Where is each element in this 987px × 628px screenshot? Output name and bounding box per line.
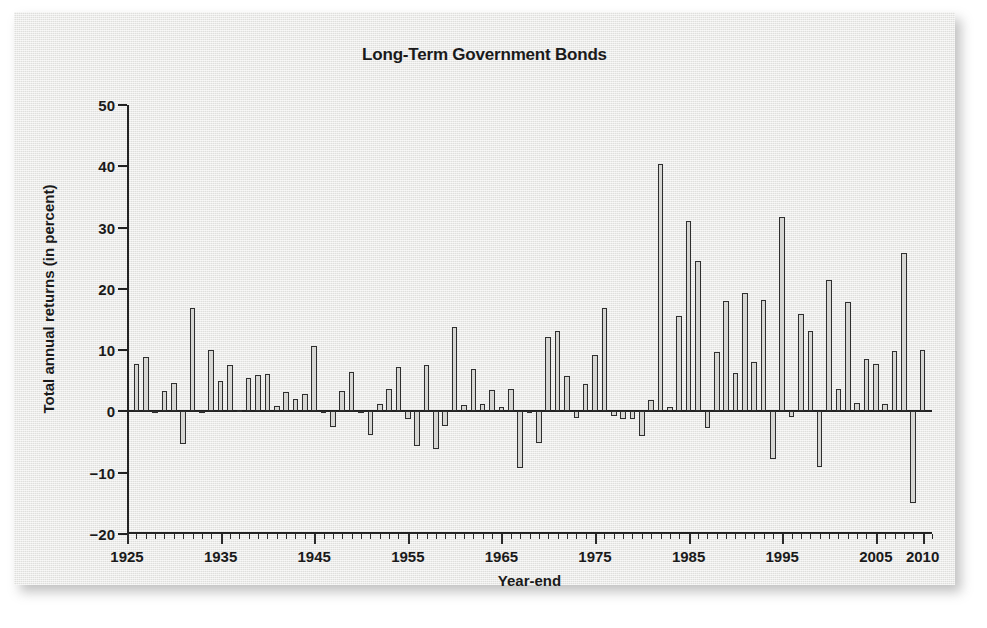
x-tick-1974	[586, 534, 587, 539]
x-tick-1937	[239, 534, 240, 539]
bar-1983	[667, 407, 673, 411]
x-tick-1982	[661, 534, 662, 539]
bar-1940	[265, 374, 271, 411]
y-tick-0	[118, 410, 127, 412]
x-tick-1939	[258, 534, 259, 539]
bar-1931	[180, 411, 186, 443]
y-tick-label-30: 30	[98, 219, 115, 236]
bar-1932	[190, 308, 196, 411]
x-tick-1926	[136, 534, 137, 539]
x-tick-1943	[295, 534, 296, 539]
x-tick-2003	[857, 534, 858, 539]
x-tick-1933	[202, 534, 203, 539]
bar-1941	[274, 406, 280, 412]
x-tick-1952	[380, 534, 381, 539]
x-tick-1959	[445, 534, 446, 539]
x-tick-1951	[370, 534, 371, 539]
bar-1942	[283, 392, 289, 412]
bar-1979	[630, 411, 636, 418]
bar-1945	[311, 346, 317, 412]
x-tick-1994	[773, 534, 774, 539]
x-tick-1998	[810, 534, 811, 539]
bar-1959	[442, 411, 448, 425]
x-tick-1965	[501, 534, 503, 544]
x-tick-1989	[726, 534, 727, 539]
bar-2002	[845, 302, 851, 411]
x-tick-1973	[576, 534, 577, 539]
bar-1966	[508, 389, 514, 411]
bar-1998	[808, 331, 814, 411]
chart-panel: Long-Term Government Bonds Total annual …	[14, 12, 955, 585]
y-tick-30	[118, 227, 127, 229]
bar-1956	[414, 411, 420, 445]
bar-1995	[779, 217, 785, 411]
bar-1980	[639, 411, 645, 436]
x-tick-1938	[249, 534, 250, 539]
x-tick-2006	[885, 534, 886, 539]
x-tick-2004	[866, 534, 867, 539]
x-tick-1980	[642, 534, 643, 539]
x-tick-1984	[679, 534, 680, 539]
x-axis-title: Year-end	[127, 572, 932, 589]
x-tick-1941	[277, 534, 278, 539]
bar-1997	[798, 314, 804, 411]
bar-2000	[826, 280, 832, 412]
y-tick-50	[118, 104, 127, 106]
bar-1946	[321, 411, 327, 413]
bar-1977	[611, 411, 617, 415]
bar-1987	[705, 411, 711, 428]
x-tick-1971	[558, 534, 559, 539]
bar-1935	[218, 381, 224, 412]
x-tick-1983	[670, 534, 671, 539]
bar-1927	[143, 357, 149, 412]
bar-1994	[770, 411, 776, 459]
chart-figure: Long-Term Government Bonds Total annual …	[0, 0, 987, 628]
bar-1934	[208, 350, 214, 411]
x-tick-2011	[932, 534, 933, 539]
x-tick-label-1945: 1945	[298, 548, 331, 565]
x-tick-2002	[848, 534, 849, 539]
x-tick-1960	[455, 534, 456, 539]
x-tick-label-2010: 2010	[906, 548, 939, 565]
x-tick-1993	[764, 534, 765, 539]
x-tick-1985	[689, 534, 691, 544]
x-tick-2010	[923, 534, 925, 544]
bar-1951	[368, 411, 374, 435]
bar-1988	[714, 352, 720, 411]
bar-1996	[789, 411, 795, 417]
bar-1939	[255, 375, 261, 411]
y-tick-label-40: 40	[98, 158, 115, 175]
x-tick-1934	[211, 534, 212, 539]
x-tick-1958	[436, 534, 437, 539]
x-tick-1997	[801, 534, 802, 539]
x-tick-1999	[820, 534, 821, 539]
bar-1991	[742, 293, 748, 411]
x-tick-1930	[174, 534, 175, 539]
x-tick-1955	[408, 534, 410, 544]
x-tick-1953	[389, 534, 390, 539]
y-tick-label-50: 50	[98, 97, 115, 114]
x-tick-1956	[417, 534, 418, 539]
bar-1999	[817, 411, 823, 466]
x-tick-1978	[623, 534, 624, 539]
x-tick-2005	[876, 534, 878, 544]
x-tick-1935	[221, 534, 223, 544]
plot-area: −20−1001020304050 1925193519451955196519…	[127, 105, 932, 534]
bar-1965	[499, 407, 505, 411]
chart-title: Long-Term Government Bonds	[14, 45, 955, 65]
bar-1964	[489, 390, 495, 411]
x-tick-1969	[539, 534, 540, 539]
y-axis-line	[127, 105, 129, 534]
bar-1944	[302, 394, 308, 411]
x-tick-1972	[567, 534, 568, 539]
bar-1960	[452, 327, 458, 412]
x-tick-1942	[286, 534, 287, 539]
bar-1985	[686, 221, 692, 411]
y-tick--10	[118, 472, 127, 474]
bar-1928	[152, 411, 158, 413]
bar-2007	[892, 351, 898, 412]
x-tick-label-1975: 1975	[578, 548, 611, 565]
x-tick-label-1985: 1985	[672, 548, 705, 565]
x-tick-label-1955: 1955	[391, 548, 424, 565]
bar-1986	[695, 261, 701, 411]
